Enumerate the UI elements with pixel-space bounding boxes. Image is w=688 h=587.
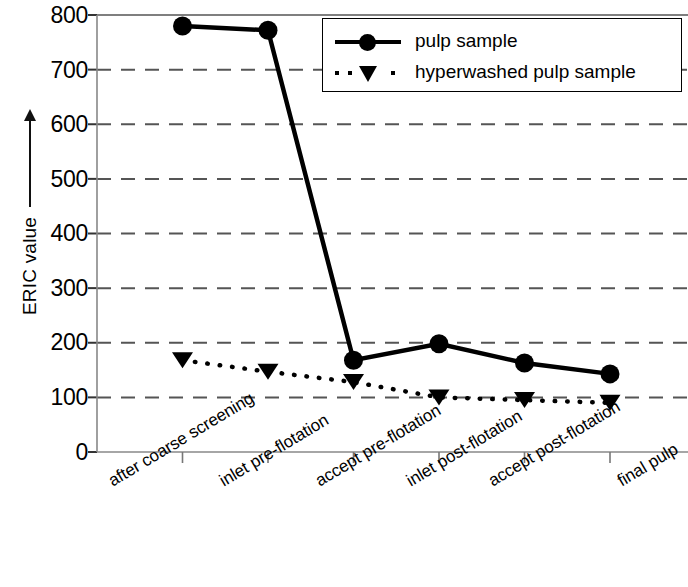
circle-marker-icon [359, 34, 376, 51]
legend-key-triangle-dotted [333, 59, 405, 85]
legend-label-1: hyperwashed pulp sample [415, 61, 636, 83]
data-point-s0-2 [344, 351, 363, 370]
legend-dot-icon-1 [335, 71, 339, 75]
legend: pulp sample hyperwashed pulp sample [322, 18, 682, 92]
data-point-s1-2 [343, 374, 364, 390]
legend-label-0: pulp sample [415, 30, 517, 52]
data-point-s0-5 [601, 364, 620, 383]
legend-dot-icon-2 [348, 71, 352, 75]
triangle-marker-icon [359, 66, 377, 82]
legend-key-circle-solid [333, 28, 405, 54]
data-point-s0-1 [259, 21, 278, 40]
data-point-s1-1 [258, 364, 279, 380]
legend-entry-pulp-sample: pulp sample [333, 26, 517, 56]
data-point-s0-4 [515, 353, 534, 372]
legend-entry-hyperwashed-pulp-sample: hyperwashed pulp sample [333, 57, 636, 87]
data-point-s0-0 [173, 16, 192, 35]
eric-value-line-chart: ERIC value 800 700 600 500 400 300 200 1… [0, 0, 688, 587]
data-point-s1-0 [172, 352, 193, 368]
data-point-s0-3 [430, 334, 449, 353]
legend-dot-icon-3 [391, 71, 395, 75]
